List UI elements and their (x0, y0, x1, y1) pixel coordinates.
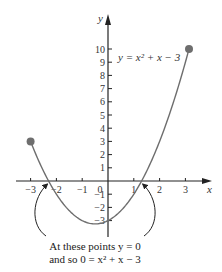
y-tick-label: 4 (100, 123, 105, 134)
y-tick-label: −2 (94, 202, 105, 213)
endpoint-dot (185, 45, 193, 53)
y-axis-label: y (97, 12, 103, 24)
x-tick-label: −1 (77, 184, 88, 195)
curve-label: y = x² + x − 3 (117, 51, 181, 63)
x-tick-label: −3 (25, 184, 36, 195)
y-tick-label: 7 (100, 83, 105, 94)
y-tick-label: 1 (100, 162, 105, 173)
y-tick-label: 3 (100, 136, 105, 147)
x-axis-label: x (206, 183, 212, 195)
endpoint-dot (27, 137, 35, 145)
y-tick-label: 8 (100, 70, 105, 81)
left-root-arrow (35, 184, 48, 236)
annotation-line-2: and so 0 = x² + x − 3 (49, 253, 141, 265)
right-root-arrow (143, 184, 155, 236)
axes (16, 14, 212, 237)
annotation-line-1: At these points y = 0 (49, 240, 141, 252)
chart: −3−2−10123−3−2−112345678910 y x y = x² +… (0, 0, 222, 272)
x-tick-label: 3 (183, 184, 188, 195)
y-tick-label: −1 (94, 189, 105, 200)
ticks: −3−2−10123−3−2−112345678910 (25, 44, 188, 227)
y-tick-label: 6 (100, 96, 105, 107)
curve-group (27, 45, 193, 224)
y-axis-arrow (105, 14, 111, 25)
y-tick-label: 5 (100, 110, 105, 121)
y-tick-label: 2 (100, 149, 105, 160)
x-tick-label: 2 (157, 184, 162, 195)
y-tick-label: 10 (95, 44, 105, 55)
y-tick-label: 9 (100, 57, 105, 68)
